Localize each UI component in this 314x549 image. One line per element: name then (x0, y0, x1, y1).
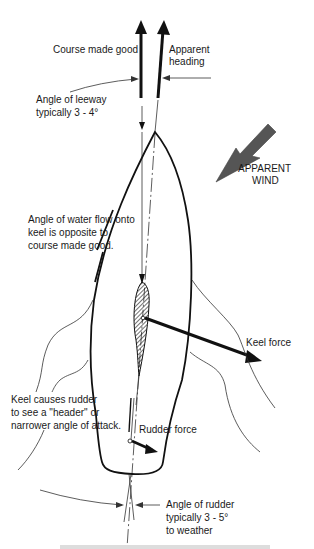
water-flow-lines-left (18, 300, 93, 470)
label-course-made-good: Course made good (53, 44, 138, 55)
label-apparent-heading-2: heading (169, 56, 205, 67)
label-water-flow-1: Angle of water flow onto (28, 214, 135, 225)
label-water-flow-2: keel is opposite to (28, 227, 108, 238)
label-rudder-angle-3: to weather (166, 525, 213, 536)
rudder-angle-indicator (40, 474, 160, 522)
label-leeway-2: typically 3 - 4° (36, 107, 98, 118)
water-flow-lines-right (190, 280, 275, 452)
keel-force-arrow (141, 316, 262, 363)
label-rudder-angle-1: Angle of rudder (166, 499, 235, 510)
keel-foil (134, 282, 149, 405)
label-header-2: to see a "header" or (11, 407, 100, 418)
label-keel-force: Keel force (246, 337, 291, 348)
cropped-caption-fragment (60, 545, 270, 549)
label-header-1: Keel causes rudder (11, 394, 98, 405)
water-flow-arrow (139, 106, 145, 284)
label-rudder-force: Rudder force (139, 424, 197, 435)
label-wind-1: APPARENT (238, 163, 291, 174)
label-rudder-angle-2: typically 3 - 5° (166, 512, 228, 523)
course-made-good-arrow (135, 20, 147, 98)
label-water-flow-3: course made good. (28, 240, 114, 251)
keel-rudder-diagram: Course made good Apparent heading Angle … (0, 0, 314, 549)
label-wind-2: WIND (252, 175, 279, 186)
label-apparent-heading-1: Apparent (169, 44, 210, 55)
label-leeway-1: Angle of leeway (36, 94, 107, 105)
label-header-3: narrower angle of attack. (11, 420, 121, 431)
